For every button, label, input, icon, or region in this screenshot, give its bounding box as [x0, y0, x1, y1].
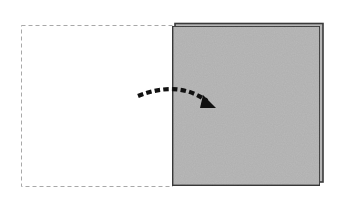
diagram-canvas [0, 0, 339, 201]
folded-flap-front [173, 26, 321, 186]
original-position-outline [22, 26, 173, 187]
